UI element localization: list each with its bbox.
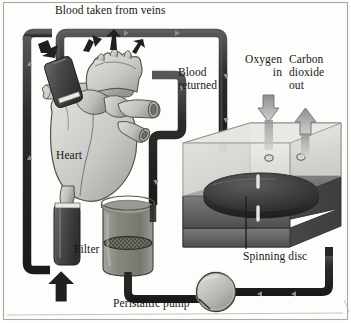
diagram-canvas — [0, 0, 351, 323]
venous-cannula — [45, 57, 83, 108]
label-heart: Heart — [56, 149, 82, 162]
filter-unit — [102, 196, 155, 288]
spinning-disc — [204, 173, 318, 218]
arterial-return-arrow — [48, 271, 74, 301]
label-blood-returned: Blood returned — [178, 66, 217, 92]
heart-lung-machine-figure: Blood taken from veins Blood returned Ox… — [0, 0, 351, 323]
venous-cannula-arrow — [38, 40, 58, 58]
aortic-outflow-arrow-right — [132, 39, 145, 54]
label-spinning-disc: Spinning disc — [243, 250, 307, 263]
label-filter: Filter — [74, 243, 100, 256]
label-blood-taken-from-veins: Blood taken from veins — [55, 4, 165, 17]
label-oxygen-in: Oxygen in — [230, 53, 282, 79]
label-peristaltic-pump: Peristaltic pump — [113, 297, 190, 310]
oxygenator-chamber — [183, 123, 341, 256]
label-carbon-dioxide-out: Carbon dioxide out — [289, 53, 345, 92]
peristaltic-pump — [195, 271, 235, 311]
gas-port-oxygen — [265, 155, 273, 161]
aortic-outflow-arrow-left — [83, 35, 102, 52]
